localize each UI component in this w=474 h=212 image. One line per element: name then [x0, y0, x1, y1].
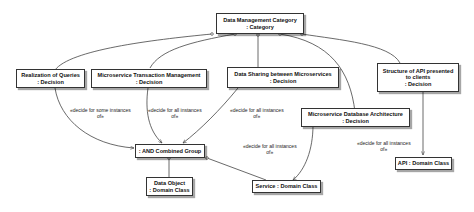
- node-title: Microservice Transaction Management: [98, 72, 201, 79]
- node-microservice-database-architecture[interactable]: Microservice Database Architecture : Dec…: [301, 108, 410, 127]
- aggregation-end: [211, 33, 214, 36]
- node-api[interactable]: API : Domain Class: [395, 157, 452, 170]
- node-title-cont: to clients: [406, 74, 431, 81]
- node-type: : Domain Class: [149, 187, 189, 194]
- node-title: API : Domain Class: [398, 160, 449, 167]
- edge-label-line: of»: [357, 146, 411, 152]
- node-title: Data Sharing between Microservices: [234, 71, 331, 78]
- node-service[interactable]: Service : Domain Class: [252, 180, 321, 193]
- node-title: Service : Domain Class: [256, 183, 318, 190]
- node-title: Realization of Queries: [21, 72, 80, 79]
- node-title: Data Management Category: [223, 17, 297, 24]
- node-data-sharing-between-microservices[interactable]: Data Sharing between Microservices : Dec…: [227, 67, 339, 88]
- node-title: Data Object: [154, 180, 185, 187]
- edge-label-apistructure-api: «decide for all instances of»: [357, 140, 411, 152]
- diagram-canvas: Data Management Category : Category Real…: [0, 0, 474, 212]
- node-type: : Category: [246, 24, 274, 31]
- node-structure-of-api[interactable]: Structure of API presented to clients : …: [377, 63, 459, 92]
- edge-label-line: of»: [70, 113, 131, 119]
- edge-label-realization-group: «decide for some instances of»: [70, 107, 131, 119]
- aggregation-end: [257, 34, 260, 37]
- edge-group-service: [207, 158, 266, 180]
- edge-category-realization: [55, 34, 212, 70]
- edge-label-line: of»: [230, 113, 284, 119]
- edge-label-sharing-group: «decide for all instances of»: [230, 107, 284, 119]
- node-type: : Decision: [37, 79, 64, 86]
- node-type: : Decision: [342, 118, 369, 125]
- node-title: Microservice Database Architecture: [308, 111, 403, 118]
- node-data-management-category[interactable]: Data Management Category : Category: [216, 13, 304, 34]
- node-type: : Decision: [136, 79, 163, 86]
- node-realization-of-queries[interactable]: Realization of Queries : Decision: [16, 69, 85, 88]
- edge-label-transaction-group: «decide for all instances of»: [148, 107, 202, 119]
- node-type: : Decision: [405, 81, 432, 88]
- edge-label-line: of»: [243, 149, 297, 155]
- edge-category-api-structure: [302, 34, 400, 63]
- node-microservice-transaction-management[interactable]: Microservice Transaction Management : De…: [91, 69, 207, 88]
- node-title: Structure of API presented: [383, 68, 454, 75]
- edge-label-line: of»: [148, 113, 202, 119]
- node-type: : Decision: [270, 78, 297, 85]
- edge-label-database-service: «decide for all instances of»: [243, 143, 297, 155]
- aggregation-end: [206, 157, 209, 160]
- node-title: : AND Combined Group: [139, 148, 202, 155]
- node-and-combined-group[interactable]: : AND Combined Group: [135, 144, 205, 158]
- node-data-object[interactable]: Data Object : Domain Class: [146, 177, 193, 196]
